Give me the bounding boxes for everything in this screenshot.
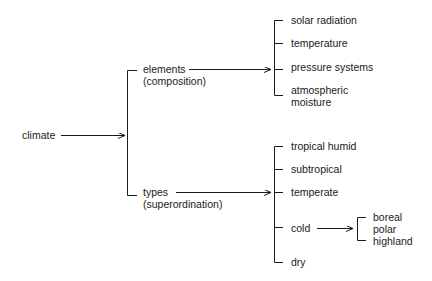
branch-sublabel-superordination: (superordination) xyxy=(143,198,222,210)
type-dry: dry xyxy=(291,256,306,268)
types-bracket xyxy=(275,147,284,263)
elements-bracket xyxy=(275,21,284,96)
branch-sublabel-composition: (composition) xyxy=(143,75,206,87)
element-solar-radiation: solar radiation xyxy=(291,14,357,26)
branch-label-types: types xyxy=(143,186,168,198)
element-pressure-systems: pressure systems xyxy=(291,61,373,73)
cold-bracket xyxy=(358,218,367,241)
type-cold: cold xyxy=(291,222,310,234)
type-temperate: temperate xyxy=(291,186,338,198)
cold-subtype-polar: polar xyxy=(373,223,396,235)
type-subtropical: subtropical xyxy=(291,163,342,175)
main-bracket xyxy=(128,71,138,196)
diagram-connectors xyxy=(0,0,432,281)
element-temperature: temperature xyxy=(291,37,348,49)
element-atmospheric: atmospheric xyxy=(291,84,348,96)
root-label-climate: climate xyxy=(22,129,55,141)
branch-label-elements: elements xyxy=(143,63,186,75)
cold-subtype-highland: highland xyxy=(373,235,413,247)
type-tropical-humid: tropical humid xyxy=(291,140,356,152)
cold-subtype-boreal: boreal xyxy=(373,211,402,223)
element-moisture: moisture xyxy=(291,96,331,108)
